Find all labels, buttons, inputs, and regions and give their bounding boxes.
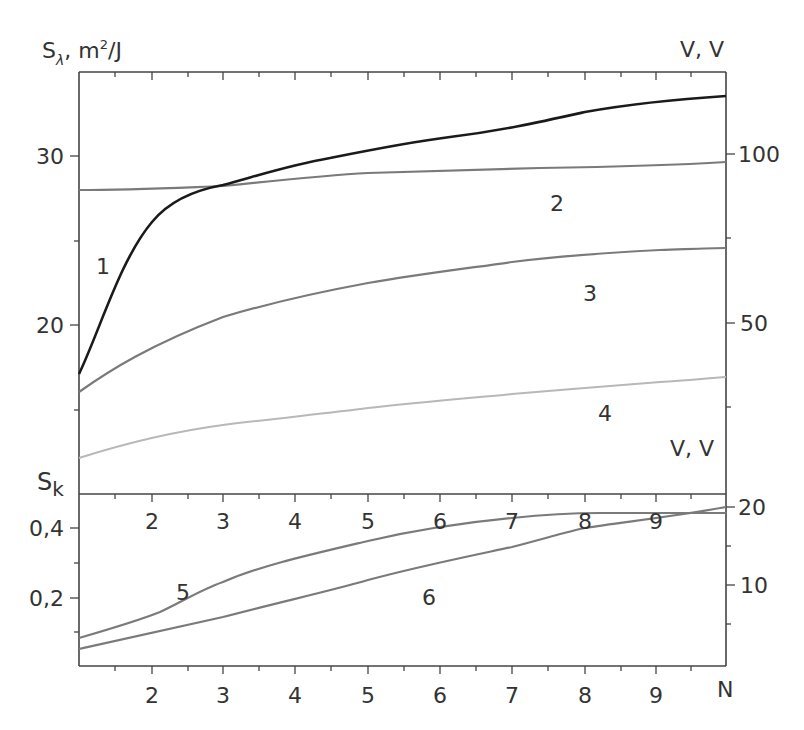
chart-svg: Sλ, m2/J V, V 30 20 100 50 Sk V, V 0,4 0… — [0, 0, 804, 730]
middle-x-ticks — [115, 494, 691, 502]
x-axis-label: N — [717, 677, 733, 702]
upper-left-axis-label: Sλ, m2/J — [42, 37, 122, 68]
curve-6 — [79, 507, 726, 649]
svg-text:5: 5 — [361, 509, 375, 534]
svg-text:4: 4 — [288, 683, 302, 708]
lower-left-tick-04: 0,4 — [29, 516, 64, 541]
lower-right-axis-label: V, V — [670, 436, 714, 461]
svg-text:4: 4 — [288, 509, 302, 534]
svg-text:6: 6 — [433, 683, 447, 708]
upper-right-axis-label: V, V — [680, 37, 724, 62]
axes-frame — [79, 72, 726, 666]
svg-text:5: 5 — [361, 683, 375, 708]
bottom-x-tick-labels: 2 3 4 5 6 7 8 9 — [145, 683, 663, 708]
right-tick-100: 100 — [738, 142, 780, 167]
svg-text:2: 2 — [145, 509, 159, 534]
svg-text:8: 8 — [578, 509, 592, 534]
curve-5 — [79, 513, 726, 638]
svg-text:9: 9 — [649, 509, 663, 534]
curve-3 — [79, 248, 726, 392]
lower-left-tick-02: 0,2 — [29, 586, 64, 611]
curve-4 — [79, 377, 726, 458]
lower-left-axis-label: Sk — [37, 468, 64, 501]
svg-text:2: 2 — [145, 683, 159, 708]
svg-text:6: 6 — [433, 509, 447, 534]
svg-text:8: 8 — [578, 683, 592, 708]
bottom-x-ticks — [115, 666, 691, 674]
curve-2 — [79, 162, 726, 190]
curve-label-4: 4 — [598, 401, 612, 426]
lower-right-tick-10: 10 — [740, 573, 768, 598]
lower-right-tick-20: 20 — [738, 495, 766, 520]
curve-1 — [79, 96, 726, 374]
svg-text:3: 3 — [216, 509, 230, 534]
curve-label-1: 1 — [96, 254, 110, 279]
top-x-ticks — [115, 72, 691, 80]
svg-text:7: 7 — [505, 509, 519, 534]
middle-x-tick-labels: 2 3 4 5 6 7 8 9 — [145, 509, 663, 534]
curve-label-3: 3 — [583, 281, 597, 306]
svg-text:3: 3 — [216, 683, 230, 708]
curve-label-2: 2 — [550, 191, 564, 216]
left-tick-20: 20 — [36, 313, 64, 338]
right-tick-50: 50 — [740, 311, 768, 336]
svg-text:9: 9 — [649, 683, 663, 708]
svg-text:7: 7 — [505, 683, 519, 708]
curve-label-6: 6 — [422, 585, 436, 610]
right-y-ticks — [726, 154, 735, 624]
left-tick-30: 30 — [36, 144, 64, 169]
left-y-ticks — [70, 156, 79, 632]
curve-label-5: 5 — [176, 580, 190, 605]
